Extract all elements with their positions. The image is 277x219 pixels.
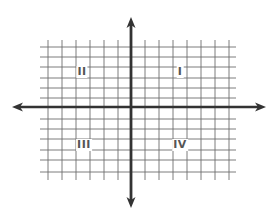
axes bbox=[12, 17, 266, 208]
quadrant-label-iv: IV bbox=[172, 139, 188, 151]
coordinate-plane bbox=[0, 0, 277, 219]
quadrant-label-iii: III bbox=[76, 139, 92, 151]
quadrant-label-i: I bbox=[177, 66, 184, 78]
grid-lines bbox=[40, 40, 236, 180]
quadrant-label-ii: II bbox=[76, 66, 87, 78]
